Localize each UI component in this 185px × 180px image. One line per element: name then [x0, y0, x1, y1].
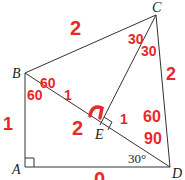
angle-d-label: 30°: [128, 151, 146, 166]
geometry-diagram: A B C D E 30° 2 2 1 1 1 2 30 30 60 60 60…: [0, 0, 185, 180]
annotation-angle-abd: 60: [27, 87, 43, 103]
annotation-angle-bde-upper: 60: [143, 108, 161, 125]
annotation-be-length: 1: [64, 87, 72, 103]
vertex-label-b: B: [12, 66, 21, 81]
annotation-ce-near-e: 2: [72, 117, 83, 139]
vertex-label-c: C: [152, 0, 162, 15]
annotation-cd-length: 2: [166, 64, 176, 84]
vertex-label-e: E: [94, 127, 104, 142]
annotation-angle-ecd: 30: [141, 43, 157, 59]
annotation-bc-length: 2: [70, 17, 81, 39]
annotation-ed-length: 1: [120, 111, 128, 127]
vertex-label-d: D: [171, 166, 182, 180]
annotation-ab-length: 1: [3, 114, 13, 134]
annotation-angle-bde-lower: 90: [144, 130, 162, 147]
right-angle-mark-a: [25, 158, 34, 167]
annotation-ad-bottom: 0: [94, 168, 105, 180]
diagram-canvas: A B C D E 30° 2 2 1 1 1 2 30 30 60 60 60…: [0, 0, 185, 180]
vertex-label-a: A: [11, 162, 21, 177]
